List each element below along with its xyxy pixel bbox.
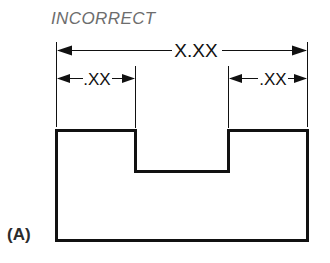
right-step-dimension-arrow-right [294, 74, 307, 83]
technical-drawing-figure: X.XX .XX .XX INCORRECT (A) [0, 0, 330, 263]
left-step-dimension-arrow-right [122, 74, 135, 83]
overall-dimension-group: X.XX [57, 40, 307, 61]
right-step-dimension-group: .XX [229, 70, 307, 89]
right-step-dimension-arrow-left [229, 74, 242, 83]
overall-dimension-arrow-left [57, 46, 72, 56]
status-label: INCORRECT [51, 9, 156, 29]
panel-caption-label: (A) [7, 225, 31, 245]
overall-dimension-arrow-right [292, 46, 307, 56]
right-step-dimension-value: .XX [259, 70, 286, 89]
drawing-canvas: X.XX .XX .XX [0, 0, 330, 263]
left-step-dimension-arrow-left [57, 74, 70, 83]
overall-dimension-value: X.XX [174, 40, 218, 61]
notched-block-outline [57, 131, 308, 241]
left-step-dimension-value: .XX [83, 70, 110, 89]
left-step-dimension-group: .XX [57, 70, 135, 89]
